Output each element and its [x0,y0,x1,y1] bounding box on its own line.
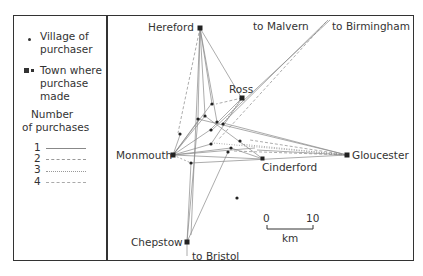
scale-end: 10 [306,212,319,224]
town-label-gloucester: Gloucester [352,149,409,161]
scale-start: 0 [263,212,270,224]
town-label-hereford: Hereford [148,21,194,33]
scale-unit: km [282,232,298,244]
town-label-ross: Ross [229,83,253,95]
town-label-monmouth: Monmouth [116,149,172,161]
town-label-chepstow: Chepstow [131,236,183,248]
town-label-cinderford: Cinderford [262,161,317,173]
external-label-bristol: to Bristol [192,250,239,262]
external-label-malvern: to Malvern [253,20,309,32]
external-label-birmingham: to Birmingham [332,20,410,32]
purchase-map [0,0,423,276]
